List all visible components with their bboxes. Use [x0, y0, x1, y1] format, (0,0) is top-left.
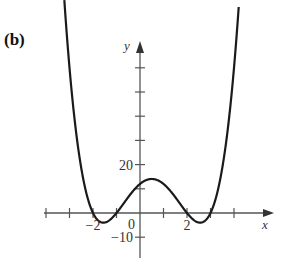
tick-labels: −2220−10: [86, 158, 191, 246]
y-axis-arrow-icon: [136, 41, 144, 53]
chart: x y 0 −2220−10: [0, 0, 286, 271]
x-tick-label: −2: [86, 218, 101, 233]
y-tick-label: 20: [119, 158, 133, 173]
x-axis-label: x: [261, 217, 268, 232]
y-tick-label: −10: [111, 230, 133, 245]
y-axis-label: y: [122, 38, 130, 53]
x-axis-arrow-icon: [263, 209, 274, 217]
function-curve: [64, 0, 238, 222]
x-tick-label: 2: [184, 218, 191, 233]
